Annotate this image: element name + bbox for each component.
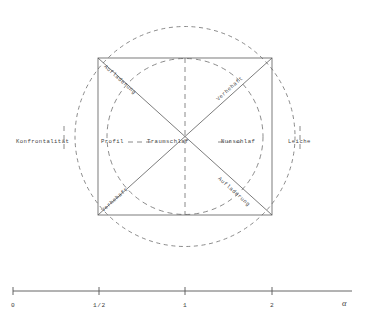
axis-tick-label-half: 1/2 [93,303,106,309]
diagram-root: Konfrontalität Profil Traumschlaf Nursch… [0,0,365,320]
axis-tick-label-1: 1 [183,303,187,309]
label-nurschlaf: Nurschlaf [221,139,255,145]
figure-svg [0,0,365,320]
axis-tick-label-0: 0 [11,303,15,309]
axis-variable-label-alpha: α [342,299,346,308]
label-profil: Profil [101,139,124,145]
axis-tick-label-2: 2 [270,303,274,309]
label-leiche: Leiche [288,139,311,145]
label-konfrontalitaet: Konfrontalität [16,139,69,145]
label-traumschlaf: Traumschlaf [147,139,189,145]
